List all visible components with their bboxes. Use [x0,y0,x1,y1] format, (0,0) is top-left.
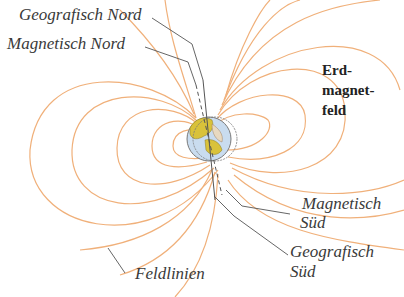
label-geographic-north: Geografisch Nord [19,6,142,23]
label-field-lines: Feldlinien [135,265,205,282]
label-magnetic-south-1: Magnetisch [302,195,381,212]
leader-magnetic-north [145,47,196,85]
label-field-title-3: feld [322,101,346,120]
label-geographic-south-2: Süd [290,263,316,280]
leader-field-lines [108,248,125,273]
label-field-title-2: magnet- [322,81,375,100]
label-magnetic-north: Magnetisch Nord [7,35,125,52]
label-field-title-1: Erd- [322,61,352,80]
leader-geographic-north [152,18,203,80]
label-geographic-south-1: Geografisch [290,243,374,260]
label-magnetic-south-2: Süd [300,214,326,231]
